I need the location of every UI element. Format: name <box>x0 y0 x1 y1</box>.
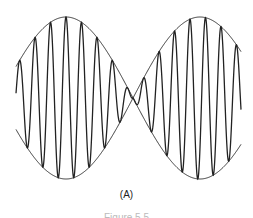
panel-label: (A) <box>0 189 253 200</box>
modulated-carrier-wave <box>16 17 241 179</box>
envelope-lower <box>16 98 241 179</box>
figure-caption: Figure 5.5 <box>0 211 253 218</box>
beat-wave-diagram <box>0 0 253 218</box>
